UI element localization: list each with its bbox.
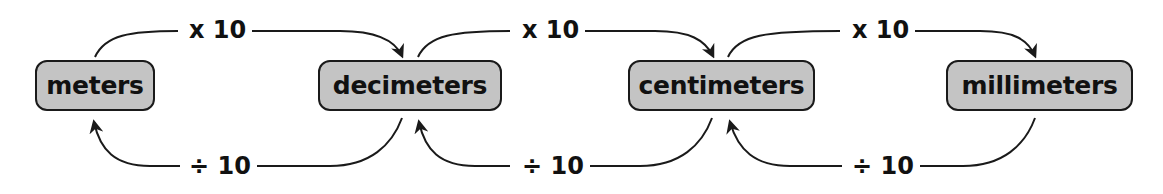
unit-box-decimeters: decimeters	[318, 60, 502, 111]
unit-label: centimeters	[639, 71, 805, 100]
divide-label: ÷ 10	[846, 152, 920, 180]
unit-label: decimeters	[333, 71, 487, 100]
unit-label: millimeters	[961, 71, 1117, 100]
multiply-label: x 10	[516, 16, 585, 44]
unit-box-meters: meters	[35, 60, 155, 111]
unit-label: meters	[46, 71, 143, 100]
divide-label: ÷ 10	[516, 152, 590, 180]
unit-box-millimeters: millimeters	[946, 60, 1133, 111]
unit-box-centimeters: centimeters	[628, 60, 815, 111]
multiply-label: x 10	[846, 16, 915, 44]
divide-label: ÷ 10	[183, 152, 257, 180]
multiply-label: x 10	[183, 16, 252, 44]
